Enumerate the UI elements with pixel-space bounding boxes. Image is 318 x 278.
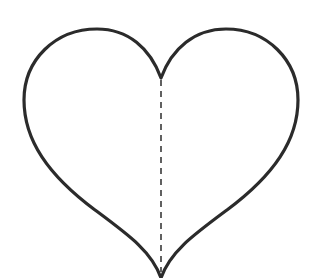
heart-diagram bbox=[0, 0, 318, 278]
heart-outline bbox=[24, 29, 298, 278]
